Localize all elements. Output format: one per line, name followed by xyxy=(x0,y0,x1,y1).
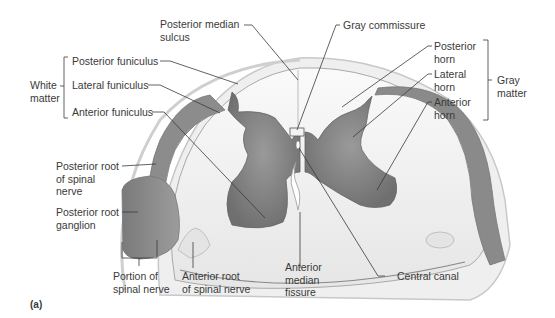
label-portion-spinal-nerve: Portion of spinal nerve xyxy=(113,270,170,295)
label-anterior-root-spinal-nerve: Anterior root of spinal nerve xyxy=(182,270,250,295)
label-posterior-root-ganglion: Posterior root ganglion xyxy=(56,206,119,231)
label-lateral-funiculus: Lateral funiculus xyxy=(72,79,148,92)
label-lateral-horn: Lateral horn xyxy=(434,68,466,93)
label-gray-commissure: Gray commissure xyxy=(343,19,425,32)
label-posterior-funiculus: Posterior funiculus xyxy=(72,55,158,68)
label-posterior-root-spinal-nerve: Posterior root of spinal nerve xyxy=(56,160,119,198)
label-central-canal: Central canal xyxy=(397,270,459,283)
label-white-matter: White matter xyxy=(30,79,60,104)
central-canal-shape xyxy=(296,141,300,149)
label-gray-matter: Gray matter xyxy=(497,74,527,99)
label-anterior-median-fissure: Anterior median fissure xyxy=(285,261,322,299)
label-anterior-funiculus: Anterior funiculus xyxy=(72,106,153,119)
panel-label: (a) xyxy=(30,299,42,312)
label-anterior-horn: Anterior horn xyxy=(434,96,471,121)
label-posterior-median-sulcus: Posterior median sulcus xyxy=(160,18,239,43)
label-posterior-horn: Posterior horn xyxy=(434,40,476,65)
posterior-root-ganglion-shape xyxy=(122,176,179,259)
